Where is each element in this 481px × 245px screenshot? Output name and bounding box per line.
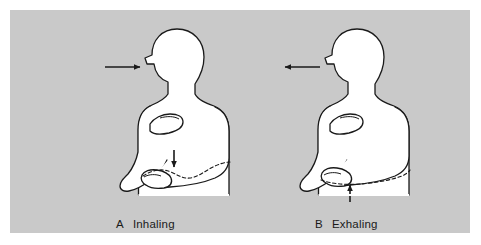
caption-b-letter: B [315, 218, 323, 230]
caption-b: BExhaling [315, 218, 378, 230]
breathing-diagram-svg [10, 10, 470, 233]
caption-a: AInhaling [116, 218, 175, 230]
illustration-root: AInhaling BExhaling [0, 0, 481, 245]
caption-a-letter: A [116, 218, 124, 230]
illustration-panel: AInhaling BExhaling [10, 10, 470, 233]
figure-b-group [285, 29, 410, 202]
caption-a-text: Inhaling [133, 218, 175, 230]
caption-b-text: Exhaling [332, 218, 378, 230]
figure-a-group [105, 29, 230, 195]
